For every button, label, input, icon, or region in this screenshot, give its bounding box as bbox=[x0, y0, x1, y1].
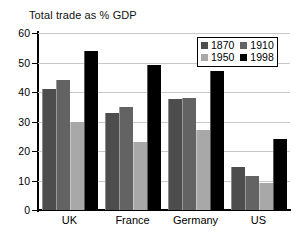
bar bbox=[245, 176, 259, 210]
legend-label: 1998 bbox=[250, 52, 273, 63]
bar bbox=[84, 51, 98, 210]
bar bbox=[105, 113, 119, 210]
legend-label: 1950 bbox=[211, 52, 234, 63]
x-axis-label-us: US bbox=[227, 214, 290, 227]
bar bbox=[42, 89, 56, 210]
legend-item-1870[interactable]: 1870 bbox=[201, 40, 234, 51]
x-axis-label-uk: UK bbox=[38, 214, 101, 227]
y-tick-label: 20 bbox=[4, 146, 30, 156]
x-axis-label-germany: Germany bbox=[164, 214, 227, 227]
legend-swatch-icon bbox=[201, 54, 208, 61]
y-tick-label: 30 bbox=[4, 117, 30, 127]
bar bbox=[133, 142, 147, 210]
chart-legend: 1870191019501998 bbox=[197, 37, 278, 67]
bar bbox=[182, 98, 196, 210]
bar bbox=[119, 107, 133, 210]
bar bbox=[168, 99, 182, 210]
legend-item-1910[interactable]: 1910 bbox=[240, 40, 273, 51]
legend-item-1950[interactable]: 1950 bbox=[201, 52, 234, 63]
y-tick-label: 50 bbox=[4, 58, 30, 68]
chart-title: Total trade as % GDP bbox=[29, 9, 137, 22]
y-tick-label: 40 bbox=[4, 87, 30, 97]
bar bbox=[231, 167, 245, 210]
legend-swatch-icon bbox=[240, 42, 247, 49]
bar bbox=[273, 139, 287, 210]
legend-label: 1870 bbox=[211, 40, 234, 51]
bar bbox=[70, 122, 84, 211]
y-tick-label: 10 bbox=[4, 176, 30, 186]
bar-group bbox=[38, 33, 101, 210]
legend-swatch-icon bbox=[240, 54, 247, 61]
x-axis-label-france: France bbox=[101, 214, 164, 227]
bar bbox=[259, 183, 273, 210]
y-tick-label: 0 bbox=[4, 205, 30, 215]
y-tick-label: 60 bbox=[4, 28, 30, 38]
bar bbox=[56, 80, 70, 210]
bar-group bbox=[101, 33, 164, 210]
y-tick-mark bbox=[32, 210, 38, 211]
legend-swatch-icon bbox=[201, 42, 208, 49]
bar bbox=[196, 130, 210, 210]
bar bbox=[210, 71, 224, 210]
legend-item-1998[interactable]: 1998 bbox=[240, 52, 273, 63]
bar bbox=[147, 65, 161, 210]
legend-label: 1910 bbox=[250, 40, 273, 51]
bar-chart: Total trade as % GDP 0102030405060 UKFra… bbox=[0, 0, 300, 238]
